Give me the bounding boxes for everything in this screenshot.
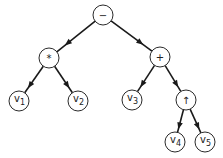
edge-times-v1 — [25, 66, 44, 93]
arrowhead-icon — [177, 122, 182, 129]
node-plus: + — [150, 47, 170, 67]
edge-minus-times — [57, 21, 95, 52]
node-v5: v5 — [195, 132, 215, 152]
node-v1: v1 — [9, 91, 29, 111]
node-v3: v3 — [122, 90, 142, 110]
arrowhead-icon — [172, 80, 178, 87]
node-times: * — [39, 48, 59, 68]
node-v4: v4 — [165, 132, 185, 152]
expression-tree-diagram: −*+v1v2v3↑v4v5 — [0, 0, 223, 158]
nodes: −*+v1v2v3↑v4v5 — [9, 5, 215, 152]
node-label: + — [156, 52, 164, 63]
node-pow: ↑ — [176, 90, 196, 110]
node-minus: − — [93, 5, 113, 25]
arrowhead-icon — [63, 81, 69, 88]
arrowhead-icon — [28, 81, 34, 88]
edge-times-v2 — [55, 66, 73, 92]
tree-svg: −*+v1v2v3↑v4v5 — [0, 0, 223, 158]
node-label: − — [99, 10, 107, 21]
edges — [25, 21, 201, 133]
arrowhead-icon — [194, 122, 199, 130]
node-v2: v2 — [68, 91, 88, 111]
edge-minus-plus — [111, 21, 152, 51]
edge-plus-pow — [165, 66, 181, 92]
edge-plus-v3 — [137, 65, 154, 91]
node-label: * — [47, 53, 52, 64]
arrowhead-icon — [140, 80, 146, 87]
node-label: ↑ — [182, 95, 190, 106]
